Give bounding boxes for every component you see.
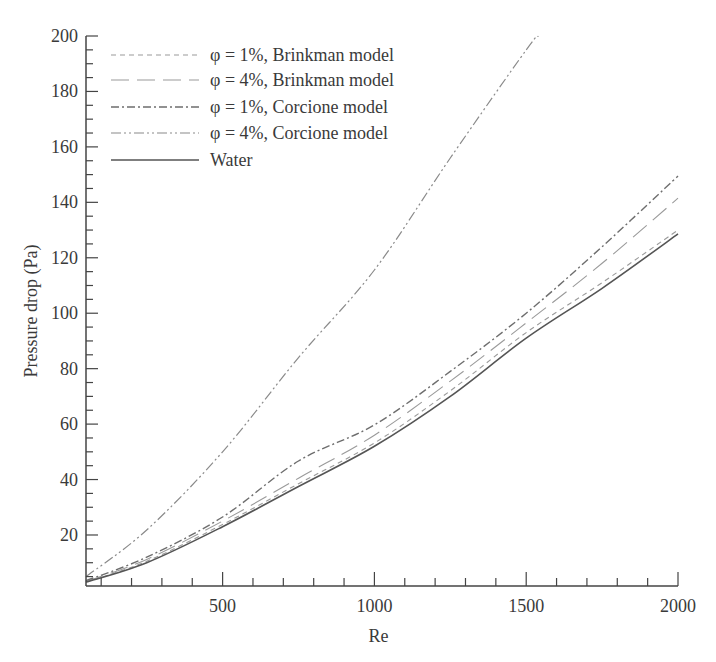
legend-item: φ = 4%, Corcione model: [111, 123, 388, 143]
y-tick-label: 120: [51, 248, 78, 268]
legend-item: φ = 1%, Brinkman model: [111, 45, 394, 65]
legend-label: φ = 1%, Corcione model: [210, 97, 388, 117]
legend-label: φ = 1%, Brinkman model: [210, 45, 394, 65]
series-line-1-brinkman-model: [86, 230, 678, 582]
y-tick-label: 100: [51, 303, 78, 323]
series-line-4-brinkman-model: [86, 198, 678, 581]
pressure-drop-chart: 20406080100120140160180200 5001000150020…: [0, 0, 716, 662]
x-tick-label: 1000: [356, 596, 392, 616]
x-axis-title: Re: [368, 626, 388, 646]
legend-item: φ = 4%, Brinkman model: [111, 70, 394, 90]
x-tick-label: 2000: [660, 596, 696, 616]
series-line-4-corcione-model: [86, 36, 538, 577]
y-tick-label: 140: [51, 192, 78, 212]
y-tick-label: 80: [60, 359, 78, 379]
y-ticks: 20406080100120140160180200: [51, 26, 98, 577]
y-axis-title: Pressure drop (Pa): [21, 245, 42, 378]
series-line-water: [86, 234, 678, 582]
legend-item: φ = 1%, Corcione model: [111, 97, 388, 117]
y-tick-label: 200: [51, 26, 78, 46]
y-tick-label: 20: [60, 525, 78, 545]
x-tick-label: 1500: [508, 596, 544, 616]
y-tick-label: 160: [51, 137, 78, 157]
series-line-1-corcione-model: [86, 176, 678, 581]
y-tick-label: 60: [60, 414, 78, 434]
plot-lines: [86, 36, 678, 582]
legend-label: φ = 4%, Brinkman model: [210, 70, 394, 90]
y-tick-label: 40: [60, 470, 78, 490]
legend: φ = 1%, Brinkman modelφ = 4%, Brinkman m…: [111, 45, 394, 170]
y-tick-label: 180: [51, 81, 78, 101]
x-ticks: 500100015002000: [101, 572, 696, 616]
legend-item: Water: [111, 150, 253, 170]
x-tick-label: 500: [209, 596, 236, 616]
legend-label: φ = 4%, Corcione model: [210, 123, 388, 143]
legend-label: Water: [210, 150, 253, 170]
